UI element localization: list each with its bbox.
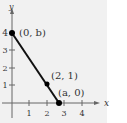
y-tick-label: 4 <box>2 28 8 38</box>
point-label-0-b: (0, b) <box>19 27 46 38</box>
point-label-2-1: (2, 1) <box>51 70 78 81</box>
x-axis-label: x <box>104 98 109 108</box>
y-tick-label: 1 <box>2 81 7 90</box>
x-tick-label: 1 <box>26 109 31 118</box>
x-tick-label: 4 <box>79 109 84 118</box>
point-label-a-0: (a, 0) <box>58 87 85 98</box>
point-2-1 <box>45 82 50 87</box>
y-tick-label: 2 <box>2 64 7 73</box>
point-a-0 <box>56 100 62 106</box>
y-tick-label: 3 <box>2 46 7 55</box>
coordinate-diagram: 1 2 3 4 1 2 3 4 x y (0, b) (2, 1) (a, 0) <box>0 0 127 123</box>
x-axis-arrow-icon <box>94 101 100 105</box>
x-tick-label: 2 <box>44 109 49 118</box>
line-segment <box>12 33 59 103</box>
y-axis-label: y <box>8 2 14 11</box>
x-tick-label: 3 <box>61 109 66 118</box>
point-0-b <box>9 30 15 36</box>
